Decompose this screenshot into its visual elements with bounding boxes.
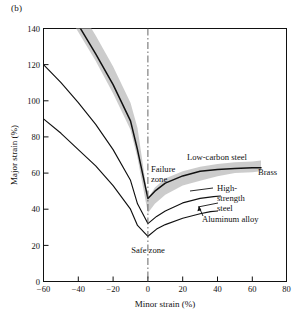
- annotation-failure-zone-line1: Failure: [151, 164, 176, 174]
- annotation-low-carbon-steel: Low-carbon steel: [187, 152, 248, 162]
- x-axis-ticks: [44, 277, 287, 282]
- xtick-minus20: −20: [106, 284, 119, 294]
- ytick-80: 80: [32, 132, 41, 142]
- leader-aluminum-alloy: [198, 203, 218, 207]
- leader-high-strength-steel: [190, 188, 213, 191]
- plot-frame: [44, 29, 287, 282]
- annotation-high-strength-line2: strength: [217, 193, 245, 203]
- xtick-20: 20: [178, 284, 187, 294]
- xtick-minus60: −60: [37, 284, 50, 294]
- annotation-safe-zone: Safe zone: [131, 245, 165, 255]
- ytick-40: 40: [32, 204, 41, 214]
- ytick-140: 140: [27, 24, 40, 34]
- ytick-60: 60: [32, 168, 41, 178]
- ytick-100: 100: [27, 96, 40, 106]
- x-axis-title: Minor strain (%): [135, 299, 196, 309]
- xtick-60: 60: [248, 284, 257, 294]
- annotation-aluminum-alloy: Aluminum alloy: [202, 214, 259, 224]
- xtick-minus40: −40: [72, 284, 85, 294]
- x-axis-tick-labels: −60 −40 −20 0 20 40 60 80: [37, 284, 291, 294]
- annotation-high-strength-line3: steel: [217, 203, 233, 213]
- xtick-40: 40: [213, 284, 222, 294]
- y-axis-tick-labels: 0 20 40 60 80 100 120 140: [27, 24, 40, 287]
- forming-limit-diagram: 0 20 40 60 80 100 120 140 −60 −40 −20 0: [0, 0, 301, 320]
- xtick-80: 80: [282, 284, 291, 294]
- xtick-0: 0: [146, 284, 150, 294]
- annotation-brass: Brass: [258, 167, 278, 177]
- annotation-failure-zone-line2: zone: [151, 174, 167, 184]
- y-axis-title: Major strain (%): [9, 125, 19, 185]
- curve-high-strength-steel: [44, 65, 221, 224]
- figure-container: (b) 0 20 40 60 80 100 120 140: [0, 0, 301, 320]
- ytick-120: 120: [27, 60, 40, 70]
- annotation-high-strength-line1: High-: [217, 183, 237, 193]
- ytick-20: 20: [32, 241, 41, 251]
